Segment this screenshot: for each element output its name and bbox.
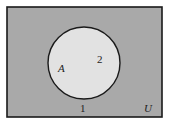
universe-label: U (144, 102, 153, 114)
region-2-label: 2 (97, 53, 103, 65)
set-a-label: A (57, 62, 65, 74)
venn-diagram: A 2 1 U (0, 0, 170, 121)
region-1-label: 1 (80, 102, 86, 114)
